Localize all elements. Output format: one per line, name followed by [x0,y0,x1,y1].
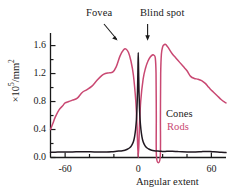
series-line-cones [51,53,227,153]
y-ticks-group [51,46,56,158]
y-tick-label: 0.8 [14,95,46,106]
x-tick-label: -60 [49,163,81,174]
fovea-arrowhead-icon [112,36,117,41]
y-axis-label-suffix-exponent: 2 [7,59,16,63]
y-tick-label: 1.2 [14,67,46,78]
y-tick-label: 1.6 [14,39,46,50]
y-axis-label-exponent: 5 [7,82,16,86]
retina-photoreceptor-density-figure: ×105/mm2 Angular extent 1.61.20.80.40.0 … [0,0,231,195]
x-axis-label: Angular extent [136,176,199,187]
legend-label-rods: Rods [167,121,189,132]
annotation-arrows-group [104,24,150,41]
annotation-label-fovea: Fovea [86,7,112,18]
annotation-label-blind-spot: Blind spot [140,7,184,18]
blind-spot-arrowhead-icon [145,35,150,41]
axes-group [51,33,227,158]
x-tick-label: 60 [195,163,227,174]
y-tick-label: 0.0 [14,151,46,162]
data-series-group [51,44,227,163]
x-tick-label: 0 [122,163,154,174]
legend-label-cones: Cones [166,108,193,119]
y-tick-label: 0.4 [14,123,46,134]
